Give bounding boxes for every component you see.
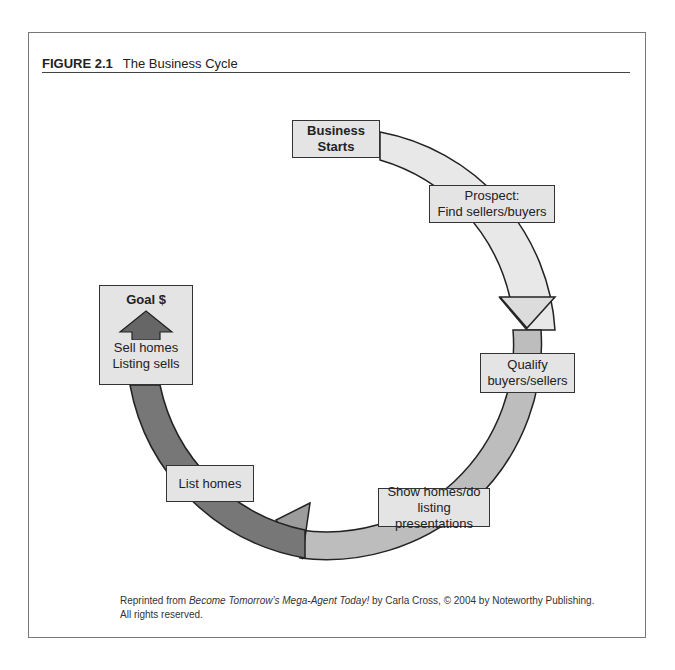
node-goal: Goal $ Sell homesListing sells xyxy=(99,285,193,385)
node-prospect: Prospect:Find sellers/buyers xyxy=(429,185,555,223)
up-arrow-icon xyxy=(116,310,176,340)
node-qualify: Qualifybuyers/sellers xyxy=(480,353,575,393)
node-list-homes: List homes xyxy=(166,465,254,502)
node-show-homes: Show homes/dolisting presentations xyxy=(378,488,490,527)
goal-title: Goal $ xyxy=(100,292,192,308)
caption: Reprinted from Become Tomorrow’s Mega-Ag… xyxy=(120,594,594,622)
node-business-starts: BusinessStarts xyxy=(292,120,380,158)
